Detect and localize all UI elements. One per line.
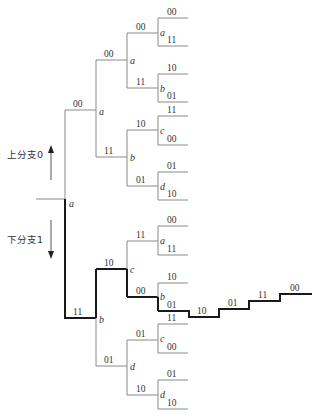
svg-text:10: 10 [167,272,177,282]
svg-text:a: a [99,106,104,117]
svg-text:b: b [160,83,165,94]
svg-text:00: 00 [290,283,300,293]
svg-text:10: 10 [104,258,114,268]
svg-text:10: 10 [167,398,177,408]
svg-text:a: a [69,198,74,209]
upper-branch-label: 上分支0 [7,149,43,160]
svg-text:b: b [99,314,104,325]
svg-text:00: 00 [167,215,177,225]
svg-text:10: 10 [167,189,177,199]
svg-text:11: 11 [104,146,113,156]
svg-text:c: c [160,125,165,136]
svg-text:11: 11 [167,244,176,254]
svg-text:11: 11 [73,307,82,317]
svg-text:a: a [160,235,165,246]
svg-text:10: 10 [197,306,207,316]
svg-text:00: 00 [167,342,177,352]
svg-text:11: 11 [136,77,145,87]
svg-text:11: 11 [136,230,145,240]
lower-subtree: 11 b 10 c 11 a 00 11 00 b 10 01 10 01 11… [65,215,312,409]
svg-text:d: d [130,361,136,372]
svg-text:00: 00 [104,49,114,59]
svg-text:00: 00 [73,99,83,109]
svg-text:10: 10 [136,119,146,129]
code-tree-diagram: 上分支0 下分支1 a 00 a 00 a 00 a 00 11 11 b [0,0,318,419]
svg-text:01: 01 [167,369,177,379]
svg-text:00: 00 [136,22,146,32]
svg-text:c: c [130,264,135,275]
svg-text:00: 00 [167,7,177,17]
svg-text:11: 11 [258,290,267,300]
svg-text:01: 01 [167,161,177,171]
svg-text:11: 11 [167,35,176,45]
svg-text:10: 10 [136,384,146,394]
lower-branch-label: 下分支1 [7,234,43,245]
svg-text:00: 00 [167,134,177,144]
svg-text:b: b [130,152,135,163]
svg-text:11: 11 [167,313,176,323]
svg-text:a: a [130,55,135,66]
svg-text:01: 01 [167,300,177,310]
svg-text:c: c [160,333,165,344]
svg-text:01: 01 [167,91,177,101]
upper-subtree: 00 a 00 a 00 a 00 11 11 b 10 01 11 b 10 … [65,7,188,200]
root-node: a [36,110,74,319]
svg-text:00: 00 [136,286,146,296]
svg-text:10: 10 [167,63,177,73]
svg-text:b: b [160,291,165,302]
svg-text:d: d [160,181,166,192]
svg-text:01: 01 [104,355,114,365]
down-arrowhead-icon [48,251,54,259]
up-arrowhead-icon [48,145,54,153]
svg-text:d: d [160,389,166,400]
svg-text:11: 11 [167,105,176,115]
svg-text:01: 01 [136,329,146,339]
svg-text:a: a [160,27,165,38]
svg-text:01: 01 [228,298,238,308]
svg-text:01: 01 [136,175,146,185]
